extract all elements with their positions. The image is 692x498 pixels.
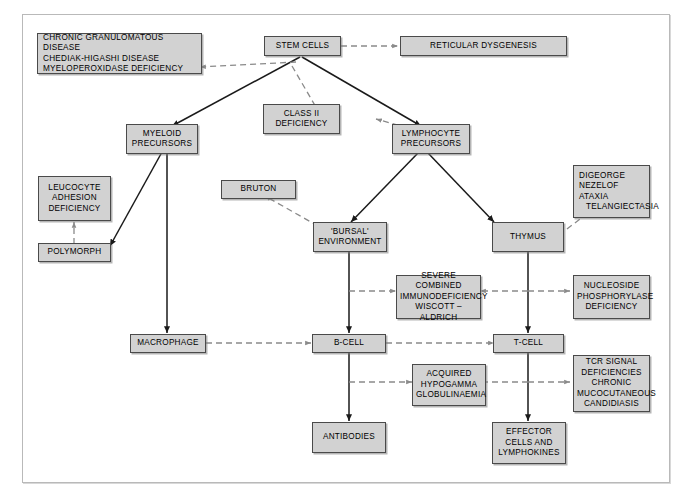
- node-polymorph[interactable]: POLYMORPH: [38, 243, 111, 262]
- node-leucocyte-adhesion-deficiency[interactable]: LEUCOCYTE ADHESION DEFICIENCY: [38, 176, 111, 221]
- node-macrophage[interactable]: MACROPHAGE: [130, 334, 206, 353]
- node-line: PHOSPHORYLASE: [577, 292, 653, 301]
- node-line: THYMUS: [510, 232, 546, 241]
- node-chronic-granulomatous[interactable]: CHRONIC GRANULOMATOUS DISEASE CHEDIAK-HI…: [37, 33, 202, 74]
- node-line: GLOBULINAEMIA: [416, 390, 486, 399]
- node-line: RETICULAR DYSGENESIS: [430, 41, 537, 50]
- node-line: DEFICIENCY: [275, 119, 327, 128]
- node-line: LYMPHOCYTE: [402, 129, 460, 138]
- node-line: ADHESION: [52, 193, 97, 202]
- node-line: HYPOGAMMA: [421, 380, 477, 389]
- node-line: STEM CELLS: [276, 41, 329, 50]
- node-line: MYELOID: [143, 129, 182, 138]
- node-line: CELLS AND: [505, 438, 552, 447]
- node-bruton[interactable]: BRUTON: [221, 180, 296, 199]
- node-thymus[interactable]: THYMUS: [492, 222, 564, 252]
- node-acquired-hypogammaglobulinaemia[interactable]: ACQUIRED HYPOGAMMA GLOBULINAEMIA: [412, 364, 486, 406]
- diagram-canvas: CHRONIC GRANULOMATOUS DISEASE CHEDIAK-HI…: [0, 0, 692, 498]
- node-line: B-CELL: [334, 338, 364, 347]
- node-severe-combined-immunodeficiency[interactable]: SEVERE COMBINED IMMUNODEFICIENCY WISCOTT…: [396, 275, 481, 319]
- node-line: MUCOCUTANEOUS: [577, 389, 656, 398]
- node-line: CHEDIAK-HIGASHI DISEASE: [43, 54, 159, 63]
- node-line: DEFICIENCY: [48, 204, 100, 213]
- node-line: WISCOTT – ALDRICH: [415, 302, 462, 322]
- node-myeloid-precursors[interactable]: MYELOID PRECURSORS: [126, 124, 198, 154]
- node-line: MACROPHAGE: [137, 338, 199, 347]
- node-line: ENVIRONMENT: [318, 237, 381, 246]
- node-t-cell[interactable]: T-CELL: [493, 334, 564, 353]
- node-class-ii-deficiency[interactable]: CLASS II DEFICIENCY: [263, 104, 340, 134]
- node-effector-cells-and-lymphokines[interactable]: EFFECTOR CELLS AND LYMPHOKINES: [492, 422, 566, 464]
- node-antibodies[interactable]: ANTIBODIES: [312, 422, 386, 453]
- node-line: CHRONIC: [592, 378, 632, 387]
- node-lymphocyte-precursors[interactable]: LYMPHOCYTE PRECURSORS: [392, 124, 470, 154]
- node-line: DEFICIENCY: [585, 302, 637, 311]
- node-stem-cells[interactable]: STEM CELLS: [264, 36, 341, 56]
- node-line: ATAXIA: [579, 192, 608, 201]
- node-line: NUCLEOSIDE: [584, 281, 640, 290]
- node-line: T-CELL: [514, 338, 543, 347]
- node-line: NEZELOF: [579, 181, 619, 190]
- node-line: CHRONIC GRANULOMATOUS DISEASE: [43, 33, 164, 53]
- node-line: LEUCOCYTE: [48, 183, 100, 192]
- node-line-indented: TELANGIECTASIA: [579, 202, 648, 213]
- node-nucleoside-phosphorylase-deficiency[interactable]: NUCLEOSIDE PHOSPHORYLASE DEFICIENCY: [573, 275, 650, 319]
- node-line: 'BURSAL': [331, 227, 369, 236]
- node-line: CANDIDIASIS: [584, 399, 639, 408]
- node-tcr-signal-deficiencies[interactable]: TCR SIGNAL DEFICIENCIES CHRONIC MUCOCUTA…: [573, 355, 650, 412]
- node-digeorge-nezelof-ataxia[interactable]: DIGEORGE NEZELOF ATAXIA TELANGIECTASIA: [573, 165, 650, 218]
- node-line: DEFICIENCIES: [581, 368, 641, 377]
- node-line: LYMPHOKINES: [498, 448, 559, 457]
- node-line: TCR SIGNAL: [586, 357, 638, 366]
- node-reticular-dysgenesis[interactable]: RETICULAR DYSGENESIS: [400, 36, 567, 56]
- node-line: PRECURSORS: [401, 139, 461, 148]
- node-line: IMMUNODEFICIENCY: [400, 292, 488, 301]
- node-line: MYELOPEROXIDASE DEFICIENCY: [43, 64, 183, 73]
- node-line: POLYMORPH: [48, 247, 102, 256]
- node-line: ACQUIRED: [426, 369, 471, 378]
- node-line: PRECURSORS: [132, 139, 192, 148]
- node-line: EFFECTOR: [506, 427, 552, 436]
- node-line: CLASS II: [284, 109, 320, 118]
- node-bursal-environment[interactable]: 'BURSAL' ENVIRONMENT: [313, 222, 387, 252]
- node-line: SEVERE COMBINED: [415, 271, 461, 291]
- node-line: DIGEORGE: [579, 171, 625, 180]
- node-line: ANTIBODIES: [323, 432, 375, 441]
- node-line: BRUTON: [241, 184, 277, 193]
- node-b-cell[interactable]: B-CELL: [312, 334, 386, 353]
